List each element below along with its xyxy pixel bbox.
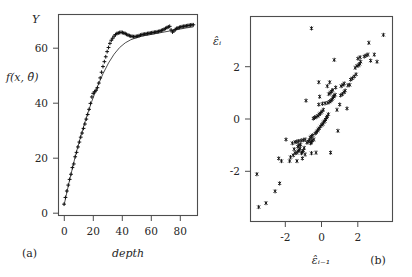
panel-a-xtick-0: 0 [61, 225, 68, 237]
panel-a-ytick-1: 20 [35, 152, 48, 164]
panel-a-y-axis-name: Y [32, 13, 41, 26]
scatter-point [274, 189, 277, 193]
figure-container: 0 20 40 60 80 0 20 40 60 Y f(x, θ̂) dept… [0, 0, 412, 277]
scatter-point [277, 156, 280, 160]
scatter-point [303, 146, 306, 150]
scatter-point [355, 72, 358, 76]
scatter-point [293, 147, 296, 151]
scatter-point [301, 156, 304, 160]
scatter-point [373, 53, 376, 57]
data-point [72, 162, 76, 166]
data-point [66, 183, 70, 187]
panel-b-xtick-1: 0 [318, 231, 325, 243]
scatter-point [255, 172, 258, 176]
scatter-point [324, 101, 327, 105]
scatter-point [289, 155, 292, 159]
panel-a-y-ticks [53, 48, 59, 213]
panel-a-ytick-2: 40 [35, 97, 48, 109]
scatter-point [257, 205, 260, 209]
panel-b-tag: (b) [370, 254, 386, 267]
scatter-point [315, 151, 318, 155]
panel-b-xtick-0: -2 [280, 231, 290, 243]
data-point [104, 55, 108, 59]
panel-a-xtick-2: 40 [116, 225, 129, 237]
scatter-point [334, 85, 337, 89]
scatter-point [329, 151, 332, 155]
scatter-point [336, 129, 339, 133]
data-point [73, 155, 77, 159]
data-point [101, 65, 105, 69]
panel-b-ytick-0: -2 [230, 165, 240, 177]
data-point [75, 150, 79, 154]
scatter-point [321, 102, 324, 106]
scatter-point [310, 151, 313, 155]
panel-b-ytick-2: 2 [233, 61, 240, 73]
data-point [65, 189, 69, 193]
panel-a-tag: (a) [22, 247, 37, 260]
panel-a-xtick-1: 20 [87, 225, 100, 237]
panel-b-data-points [255, 26, 385, 209]
scatter-point [369, 59, 372, 63]
panel-b-xtick-2: 2 [354, 231, 361, 243]
scatter-point [333, 58, 336, 62]
data-point [97, 81, 101, 85]
panel-b-frame [251, 17, 393, 222]
panel-a-ytick-3: 60 [35, 42, 48, 54]
scatter-point [382, 33, 385, 37]
panel-a-data-points [62, 23, 195, 206]
fit-curve [64, 27, 193, 205]
data-point [76, 145, 80, 149]
scatter-point [335, 108, 338, 112]
data-point [107, 46, 111, 50]
data-point [87, 107, 91, 111]
data-point [64, 196, 68, 200]
data-point [69, 172, 73, 176]
data-point [79, 135, 83, 139]
panel-a-x-axis-title: depth [112, 247, 144, 260]
panel-b-ytick-1: 0 [233, 113, 240, 125]
panel-a: 0 20 40 60 80 0 20 40 60 Y f(x, θ̂) dept… [5, 13, 198, 260]
scatter-point [338, 102, 341, 106]
data-point [102, 60, 106, 64]
data-point [105, 50, 109, 54]
panel-a-fit-line [64, 27, 193, 205]
scatter-point [317, 102, 320, 106]
two-panel-figure: 0 20 40 60 80 0 20 40 60 Y f(x, θ̂) dept… [0, 0, 412, 277]
panel-b-y-ticks [245, 67, 251, 172]
data-point [71, 166, 75, 170]
scatter-point [326, 84, 329, 88]
panel-b-y-axis-title: ε̂ᵢ [213, 35, 221, 48]
scatter-point [264, 201, 267, 205]
scatter-point [310, 26, 313, 30]
panel-a-y-axis-title: f(x, θ̂) [5, 71, 38, 84]
panel-a-x-ticks [64, 216, 180, 222]
scatter-point [367, 41, 370, 45]
scatter-point [288, 159, 291, 163]
scatter-point [345, 106, 348, 110]
panel-a-xtick-3: 60 [145, 225, 158, 237]
scatter-point [317, 80, 320, 84]
scatter-point [305, 99, 308, 103]
panel-a-xtick-4: 80 [174, 225, 187, 237]
data-point [62, 202, 66, 206]
data-point [77, 140, 81, 144]
scatter-point [328, 80, 331, 84]
panel-a-ytick-0: 0 [41, 207, 48, 219]
panel-a-frame [59, 15, 198, 216]
scatter-point [376, 60, 379, 64]
panel-b: -2 0 2 -2 0 2 ε̂ᵢ ε̂ᵢ₋₁ (b) [213, 17, 393, 268]
data-point [86, 113, 90, 117]
panel-b-x-axis-title: ε̂ᵢ₋₁ [312, 254, 330, 267]
data-point [68, 178, 72, 182]
scatter-point [295, 159, 298, 163]
scatter-point [304, 152, 307, 156]
scatter-point [278, 181, 281, 185]
scatter-point [318, 95, 321, 99]
panel-b-x-ticks [285, 222, 358, 228]
scatter-point [284, 137, 287, 141]
